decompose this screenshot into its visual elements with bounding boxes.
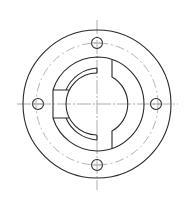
flange-drawing: [0, 0, 188, 198]
